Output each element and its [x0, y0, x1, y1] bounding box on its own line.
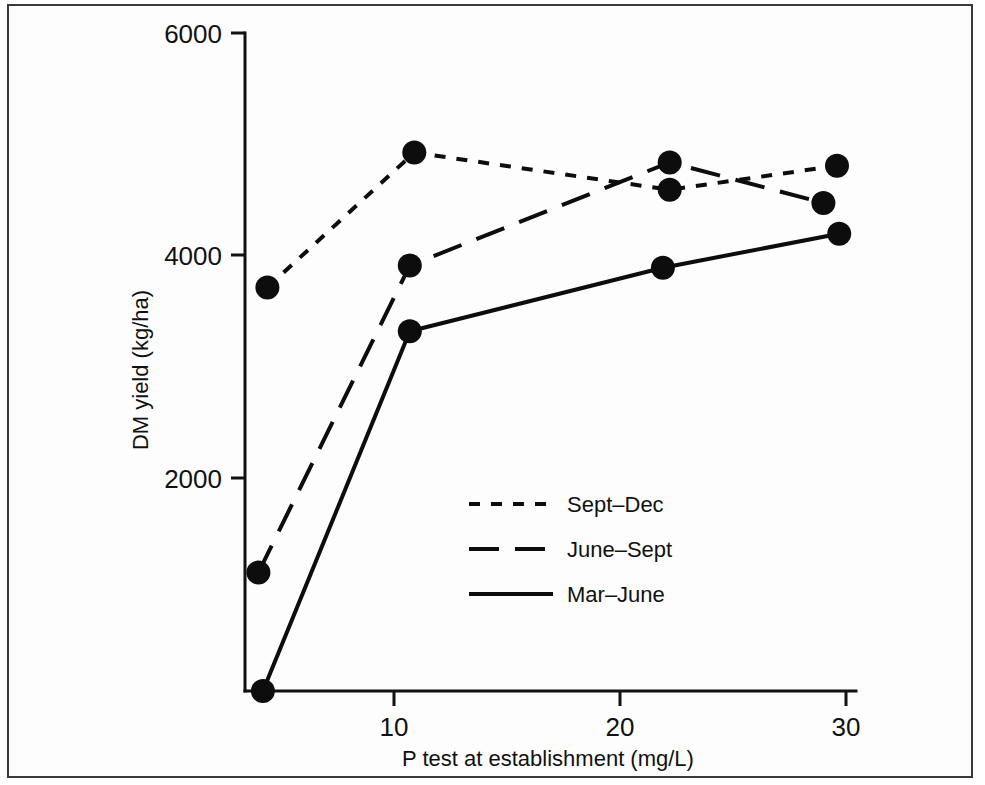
series-line-0 — [267, 153, 837, 288]
data-point — [398, 254, 422, 278]
data-point — [825, 154, 849, 178]
data-point — [398, 319, 422, 343]
series-line-1 — [258, 162, 823, 572]
legend-entry-june-sept: June–Sept — [469, 537, 672, 562]
y-axis-group: 6000 4000 2000 DM yield (kg/ha) — [128, 19, 245, 691]
x-tick-label-20: 20 — [606, 712, 635, 742]
data-point — [658, 150, 682, 174]
series-mar-june — [251, 222, 851, 703]
series-layer — [246, 141, 851, 704]
data-point — [251, 679, 275, 703]
data-point — [651, 256, 675, 280]
data-point — [827, 222, 851, 246]
series-line-2 — [263, 234, 839, 691]
x-tick-label-10: 10 — [380, 712, 409, 742]
data-point — [402, 141, 426, 165]
series-sept-dec — [255, 141, 849, 300]
legend-entry-mar-june: Mar–June — [469, 582, 665, 607]
legend-label-mar-june: Mar–June — [567, 582, 665, 607]
x-axis-group: 10 20 30 P test at establishment (mg/L) — [245, 691, 860, 771]
legend-entry-sept-dec: Sept–Dec — [469, 492, 664, 517]
x-axis-title: P test at establishment (mg/L) — [402, 746, 694, 771]
data-point — [658, 178, 682, 202]
x-tick-label-30: 30 — [832, 712, 861, 742]
y-tick-label-2000: 2000 — [164, 464, 222, 494]
y-tick-label-6000: 6000 — [164, 19, 222, 49]
data-point — [811, 191, 835, 215]
data-point — [246, 561, 270, 585]
chart-figure: 6000 4000 2000 DM yield (kg/ha) 10 20 30… — [0, 0, 985, 785]
legend-label-sept-dec: Sept–Dec — [567, 492, 664, 517]
y-tick-label-4000: 4000 — [164, 241, 222, 271]
line-chart-canvas: 6000 4000 2000 DM yield (kg/ha) 10 20 30… — [0, 0, 985, 785]
legend: Sept–Dec June–Sept Mar–June — [469, 492, 672, 607]
data-point — [255, 275, 279, 299]
legend-label-june-sept: June–Sept — [567, 537, 672, 562]
y-axis-title: DM yield (kg/ha) — [128, 290, 153, 450]
